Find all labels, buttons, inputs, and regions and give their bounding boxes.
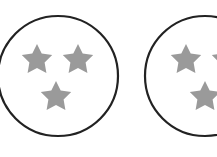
star-icon [63,44,93,73]
figure-canvas [0,0,217,157]
star-icon [212,44,217,73]
star-icon [171,44,201,73]
star-icon [22,44,52,73]
star-icon [190,81,217,110]
circle-group-1 [0,16,118,136]
circle-group-2 [145,16,217,136]
circles-with-stars-figure [0,0,217,157]
circle-outline-1 [0,16,118,136]
circle-outline-2 [145,16,217,136]
star-icon [41,81,71,110]
